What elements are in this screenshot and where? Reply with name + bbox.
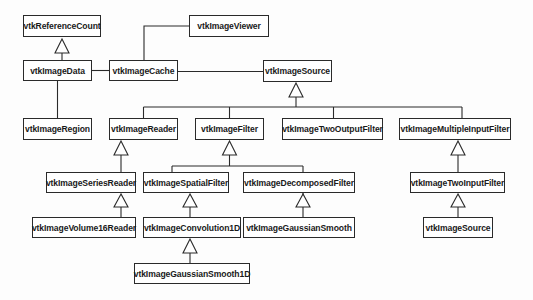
class-vtkreferencecount: vtkReferenceCount xyxy=(23,15,101,37)
inheritance-arrow xyxy=(183,239,197,263)
inheritance-arrow xyxy=(172,141,303,172)
class-vtkimagetwooutputfilter: vtkImageTwoOutputFilter xyxy=(282,118,383,140)
inheritance-arrow xyxy=(144,83,463,118)
class-vtkimagetwoinputfilter: vtkImageTwoInputFilter xyxy=(410,172,505,193)
class-vtkimageseriesreader: vtkImageSeriesReader xyxy=(46,172,136,193)
class-vtkimagereader: vtkImageReader xyxy=(109,118,178,140)
class-vtkimagespatialfilter: vtkImageSpatialFilter xyxy=(143,172,229,193)
inheritance-arrow xyxy=(114,141,128,172)
inheritance-arrow xyxy=(296,193,310,217)
class-vtkimagegaussiansmooth1d: vtkImageGaussianSmooth1D xyxy=(134,263,250,284)
class-vtkimageregion: vtkImageRegion xyxy=(23,118,92,140)
class-vtkimagevolume16reader: vtkImageVolume16Reader xyxy=(32,217,136,238)
class-diagram: vtkReferenceCount vtkImageData vtkImageC… xyxy=(0,0,533,300)
class-vtkimagegaussiansmooth: vtkImageGaussianSmooth xyxy=(243,217,355,238)
inheritance-arrow xyxy=(55,39,69,60)
class-vtkimageviewer: vtkImageViewer xyxy=(189,15,269,37)
class-vtkimagedecomposedfilter: vtkImageDecomposedFilter xyxy=(243,172,355,193)
inheritance-arrow xyxy=(451,194,465,217)
class-vtkimagesource-2: vtkImageSource xyxy=(423,217,493,238)
class-vtkimagedata: vtkImageData xyxy=(23,60,92,81)
class-vtkimagecache: vtkImageCache xyxy=(109,60,178,81)
inheritance-arrow xyxy=(183,194,197,217)
class-vtkimagesource: vtkImageSource xyxy=(263,60,332,82)
connector-lines xyxy=(0,0,533,300)
class-vtkimagemultipleinputfilter: vtkImageMultipleInputFilter xyxy=(399,118,511,140)
inheritance-arrow xyxy=(451,141,465,172)
inheritance-arrow xyxy=(114,194,128,217)
class-vtkimageconvolution1d: vtkImageConvolution1D xyxy=(143,217,241,238)
class-vtkimagefilter: vtkImageFilter xyxy=(195,118,264,140)
